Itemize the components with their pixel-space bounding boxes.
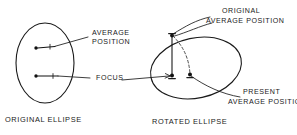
present-average-position-label-line1: PRESENT — [243, 88, 280, 96]
original-focus-marker — [34, 74, 58, 79]
average-position-bar — [38, 47, 56, 49]
focus-leader-line — [58, 76, 90, 78]
original-average-position-marker — [34, 44, 55, 49]
present-average-position-label-line2: AVERAGE POSITION — [228, 98, 297, 106]
average-position-label-line2: POSITION — [92, 38, 130, 46]
rotation-arc — [173, 36, 190, 74]
rotated-focus-dot — [170, 74, 174, 78]
original-average-position-leader-line-b — [173, 23, 212, 37]
original-average-position-label-line2: AVERAGE POSITION — [206, 17, 284, 25]
original-ellipse-outline — [16, 23, 74, 103]
rotated-ellipse-caption: ROTATED ELLIPSE — [152, 117, 227, 126]
original-ellipse-group: AVERAGE POSITION FOCUS ORIGINAL ELLIPSE — [5, 23, 130, 124]
focus-arrow-line — [122, 76, 170, 80]
original-average-position-label-line1: ORIGINAL — [222, 7, 260, 15]
focus-label: FOCUS — [96, 74, 124, 82]
diagram-canvas: AVERAGE POSITION FOCUS ORIGINAL ELLIPSE — [0, 0, 297, 135]
diagram-svg: AVERAGE POSITION FOCUS ORIGINAL ELLIPSE — [0, 0, 297, 135]
present-average-position-leader-line — [191, 76, 240, 97]
average-position-label-line1: AVERAGE — [92, 29, 130, 37]
original-ellipse-caption: ORIGINAL ELLIPSE — [5, 115, 82, 124]
rotated-ellipse-group: ORIGINAL AVERAGE POSITION PRESENT AVERAG… — [122, 7, 297, 126]
